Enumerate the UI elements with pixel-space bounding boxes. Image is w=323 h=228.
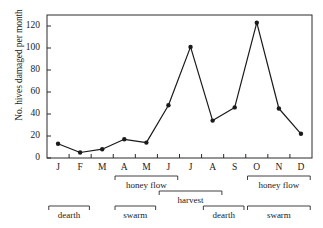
- y-tick-label: 20: [0, 130, 40, 140]
- x-month-label-a-7: A: [205, 162, 221, 172]
- plot-frame: [47, 15, 312, 158]
- annotation-label-honey-flow: honey flow: [229, 180, 323, 190]
- data-point-marker[interactable]: [188, 45, 192, 49]
- annotation-label-swarm: swarm: [85, 210, 185, 220]
- x-month-label-m-4: M: [138, 162, 154, 172]
- data-point-marker[interactable]: [277, 106, 281, 110]
- x-month-label-d-11: D: [293, 162, 309, 172]
- line-chart-plot: [0, 0, 323, 228]
- y-tick-label: 0: [0, 152, 40, 162]
- x-month-label-j-0: J: [50, 162, 66, 172]
- data-point-marker[interactable]: [210, 118, 214, 122]
- x-month-label-a-3: A: [116, 162, 132, 172]
- data-point-marker[interactable]: [255, 21, 259, 25]
- data-point-marker[interactable]: [166, 103, 170, 107]
- x-month-label-o-9: O: [249, 162, 265, 172]
- annotation-label-swarm: swarm: [229, 210, 323, 220]
- data-series-line: [58, 23, 301, 153]
- y-tick-label: 60: [0, 86, 40, 96]
- data-point-marker[interactable]: [122, 137, 126, 141]
- data-point-marker[interactable]: [144, 140, 148, 144]
- data-point-marker[interactable]: [78, 150, 82, 154]
- data-point-marker[interactable]: [299, 132, 303, 136]
- y-tick-label: 100: [0, 42, 40, 52]
- annotation-label-honey-flow: honey flow: [96, 180, 196, 190]
- data-point-marker[interactable]: [233, 105, 237, 109]
- data-point-marker[interactable]: [100, 147, 104, 151]
- x-month-label-j-6: J: [183, 162, 199, 172]
- chart-figure: No. hives damaged per month 020406080100…: [0, 0, 323, 228]
- x-month-label-m-2: M: [94, 162, 110, 172]
- x-month-label-f-1: F: [72, 162, 88, 172]
- x-month-label-n-10: N: [271, 162, 287, 172]
- x-month-label-s-8: S: [227, 162, 243, 172]
- data-point-marker[interactable]: [56, 142, 60, 146]
- y-tick-label: 80: [0, 64, 40, 74]
- y-tick-label: 120: [0, 20, 40, 30]
- y-tick-label: 40: [0, 108, 40, 118]
- x-month-label-j-5: J: [160, 162, 176, 172]
- annotation-label-harvest: harvest: [141, 195, 241, 205]
